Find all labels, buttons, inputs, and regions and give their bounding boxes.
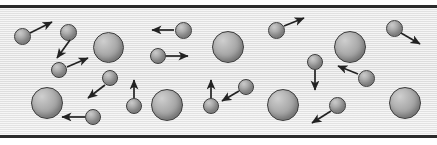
particle-small bbox=[85, 109, 101, 125]
particle-large bbox=[212, 31, 244, 63]
particle-small bbox=[307, 54, 323, 70]
particle-small bbox=[329, 97, 346, 114]
particle-small bbox=[268, 22, 285, 39]
particle-small bbox=[358, 70, 375, 87]
particle-small bbox=[150, 48, 166, 64]
particle-large bbox=[389, 87, 421, 119]
particle-small bbox=[14, 28, 31, 45]
particle-small bbox=[203, 98, 219, 114]
particle-small bbox=[51, 62, 67, 78]
particle-layer bbox=[0, 0, 437, 145]
particle-large bbox=[334, 31, 366, 63]
gas-container bbox=[0, 0, 437, 145]
particle-large bbox=[93, 32, 124, 63]
particle-large bbox=[151, 89, 183, 121]
particle-small bbox=[175, 22, 192, 39]
particle-small bbox=[386, 20, 403, 37]
particle-small bbox=[60, 24, 77, 41]
particle-diagram-figure bbox=[0, 0, 437, 145]
particle-large bbox=[31, 87, 63, 119]
particle-large bbox=[267, 89, 299, 121]
particle-small bbox=[102, 70, 118, 86]
particle-small bbox=[238, 79, 254, 95]
particle-small bbox=[126, 98, 142, 114]
